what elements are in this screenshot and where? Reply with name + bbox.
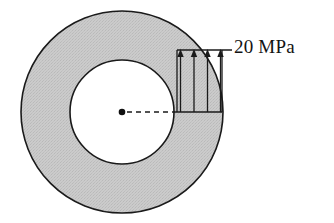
figure-canvas: 20 MPa (0, 0, 334, 223)
center-point-dot (119, 109, 126, 116)
pressure-magnitude-label: 20 MPa (234, 36, 295, 58)
annulus-pressure-diagram (0, 0, 334, 223)
